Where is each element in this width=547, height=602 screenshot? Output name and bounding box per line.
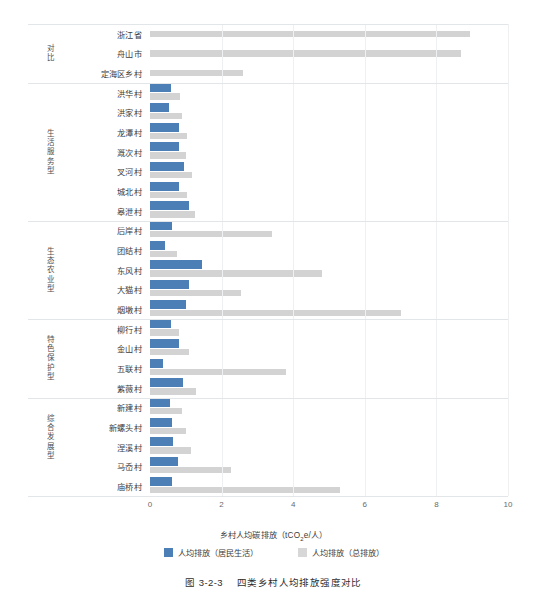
plot-bottom-rule — [28, 496, 508, 497]
category-label-row: 舟山市 — [72, 44, 150, 64]
category-label: 后岸村 — [117, 224, 142, 236]
gridline — [508, 24, 509, 496]
category-label: 金山村 — [117, 342, 142, 354]
category-label-row: 紫薇村 — [72, 378, 150, 398]
bar-row — [150, 299, 508, 319]
group-label: 生活服务型 — [46, 129, 54, 175]
category-label: 溉次村 — [117, 146, 142, 158]
bar-residential — [150, 457, 178, 466]
category-label-row: 洪家村 — [72, 103, 150, 123]
x-axis-title: 乡村人均碳排放（tCO2e/人） — [0, 528, 547, 542]
category-label: 五联村 — [117, 362, 142, 374]
legend-swatch-total — [298, 548, 307, 557]
bar-row — [150, 142, 508, 162]
category-label: 新螺头村 — [109, 421, 142, 433]
category-label-row: 洪华村 — [72, 83, 150, 103]
bar-total — [150, 428, 186, 435]
bar-residential — [150, 162, 184, 171]
caption-title: 四类乡村人均排放强度对比 — [237, 577, 362, 588]
category-label: 庙桥村 — [117, 480, 142, 492]
category-label-row: 五联村 — [72, 358, 150, 378]
x-axis-tick: 8 — [434, 500, 438, 509]
bar-residential — [150, 201, 189, 210]
bar-total — [150, 447, 191, 454]
category-label-row: 浙江省 — [72, 24, 150, 44]
group-label-cell: 生态农业型 — [28, 221, 72, 319]
legend-swatch-residential — [164, 548, 173, 557]
category-label: 洪华村 — [117, 87, 142, 99]
bar-total — [150, 172, 192, 179]
bar-total — [150, 467, 231, 474]
gridline — [293, 24, 294, 496]
category-label-row: 城北村 — [72, 181, 150, 201]
legend-item: 人均排放（居民生活） — [164, 546, 258, 558]
x-axis-tick: 4 — [291, 500, 295, 509]
category-label-row: 溉次村 — [72, 142, 150, 162]
category-label: 龙潭村 — [117, 126, 142, 138]
category-label: 柳行村 — [117, 323, 142, 335]
bar-total — [150, 70, 243, 77]
bar-total — [150, 388, 196, 395]
bar-total — [150, 152, 186, 159]
group-separator — [28, 221, 508, 222]
bar-row — [150, 240, 508, 260]
bar-row — [150, 83, 508, 103]
x-axis-title-main: 乡村人均碳排放（tCO — [220, 531, 301, 540]
bar-row — [150, 162, 508, 182]
bar-row — [150, 417, 508, 437]
x-axis: 0246810 — [150, 500, 508, 514]
bar-row — [150, 339, 508, 359]
bar-row — [150, 319, 508, 339]
group-label: 生态农业型 — [46, 247, 54, 293]
category-label: 舟山市 — [117, 47, 142, 59]
category-label: 皋泄村 — [117, 205, 142, 217]
bar-row — [150, 63, 508, 83]
bar-row — [150, 181, 508, 201]
bar-residential — [150, 142, 179, 151]
category-label-row: 柳行村 — [72, 319, 150, 339]
category-label: 定海区乡村 — [101, 67, 143, 79]
bar-row — [150, 24, 508, 44]
legend-item: 人均排放（总排放） — [298, 546, 384, 558]
legend-label: 人均排放（总排放） — [312, 546, 384, 558]
bar-residential — [150, 182, 179, 191]
chart-legend: 人均排放（居民生活）人均排放（总排放） — [0, 546, 547, 558]
category-label-row: 叉河村 — [72, 162, 150, 182]
bar-residential — [150, 280, 189, 289]
bar-total — [150, 270, 322, 277]
bar-total — [150, 113, 182, 120]
bar-residential — [150, 477, 172, 486]
bars-column — [150, 24, 508, 496]
bar-residential — [150, 339, 179, 348]
category-label: 大猫村 — [117, 283, 142, 295]
category-label: 新建村 — [117, 401, 142, 413]
bar-row — [150, 280, 508, 300]
category-label-row: 庙桥村 — [72, 476, 150, 496]
gridline — [222, 24, 223, 496]
bar-total — [150, 329, 179, 336]
gridline — [365, 24, 366, 496]
bar-residential — [150, 437, 173, 446]
category-label: 涅溪村 — [117, 441, 142, 453]
bar-row — [150, 44, 508, 64]
group-label-column: 对比生活服务型生态农业型特色保护型综合发展型 — [28, 24, 72, 496]
category-label-row: 新螺头村 — [72, 417, 150, 437]
bar-residential — [150, 300, 186, 309]
x-axis-tick: 2 — [219, 500, 223, 509]
bar-residential — [150, 241, 165, 250]
category-label-row: 龙潭村 — [72, 122, 150, 142]
group-separator — [28, 83, 508, 84]
bar-residential — [150, 260, 202, 269]
bar-residential — [150, 378, 183, 387]
group-label: 特色保护型 — [46, 335, 54, 381]
bar-total — [150, 192, 187, 199]
category-label-row: 金山村 — [72, 339, 150, 359]
group-separator — [28, 398, 508, 399]
group-label-cell: 对比 — [28, 24, 72, 83]
bar-row — [150, 221, 508, 241]
chart-plot-area: 对比生活服务型生态农业型特色保护型综合发展型 浙江省舟山市定海区乡村洪华村洪家村… — [0, 0, 547, 520]
bar-row — [150, 378, 508, 398]
bar-residential — [150, 221, 172, 230]
category-label: 洪家村 — [117, 106, 142, 118]
x-axis-title-tail: e/人） — [304, 531, 328, 540]
